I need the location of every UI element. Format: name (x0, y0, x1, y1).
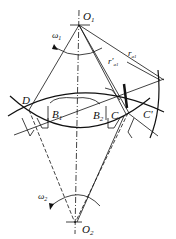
label-ra1: ra1 (128, 48, 137, 59)
tooth-left-profile (22, 118, 34, 136)
omega1-arrow-icon (52, 44, 58, 50)
label-omega2: ω2 (38, 191, 47, 202)
tooth-right-profile (128, 118, 134, 138)
label-c-prime: C' (143, 108, 153, 120)
label-ra1-prime: r'a1 (108, 56, 118, 67)
addendum-circle-2 (10, 96, 150, 128)
outer-arc (150, 70, 159, 138)
label-o1: O1 (83, 10, 94, 24)
omega2-arrow-icon (49, 203, 54, 210)
cprime-to-o2-line (75, 113, 128, 223)
c-to-o2-line (77, 116, 124, 222)
center-line (75, 10, 79, 234)
label-o2: O2 (82, 223, 94, 237)
label-b1: B1 (52, 108, 62, 122)
label-d: D (21, 94, 30, 106)
label-omega1: ω1 (52, 30, 61, 41)
gear-mesh-diagram: O1 O2 ω1 ω2 r'a1 ra1 D B1 B2 C C' (0, 0, 176, 239)
o1-to-cprime-line (79, 25, 129, 113)
tooth-top (50, 98, 100, 104)
label-b2: B2 (93, 109, 104, 123)
ra1-dimension (127, 62, 160, 80)
o1-to-c-line (79, 25, 126, 114)
label-c: C (111, 109, 119, 121)
